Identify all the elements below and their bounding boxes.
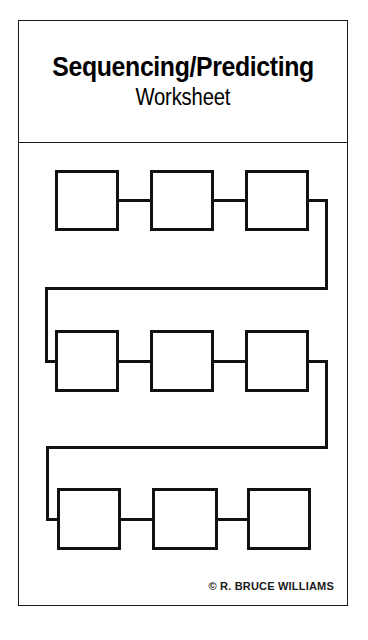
flow-box-step-3[interactable] [245, 170, 309, 231]
worksheet-page: Sequencing/Predicting Worksheet [0, 0, 368, 640]
connector-step1-step2 [117, 199, 152, 202]
copyright-credit: © R. BRUCE WILLIAMS [208, 580, 334, 592]
flow-box-step-7[interactable] [57, 488, 121, 550]
connector-row1-row2-down-right [325, 199, 328, 290]
flow-box-step-9[interactable] [247, 488, 311, 550]
flow-box-step-2[interactable] [150, 170, 214, 231]
sequencing-flow-diagram: © R. BRUCE WILLIAMS [18, 143, 348, 606]
flow-box-step-5[interactable] [150, 330, 214, 392]
flow-box-step-1[interactable] [55, 170, 119, 231]
connector-row2-row3-across [46, 446, 328, 449]
connector-row1-row2-down-left [45, 287, 48, 363]
connector-step4-step5 [117, 360, 152, 363]
page-subtitle: Worksheet [136, 85, 231, 109]
connector-step7-step8 [119, 518, 154, 521]
connector-step2-step3 [212, 199, 247, 202]
connector-row2-row3-down-left [46, 446, 49, 521]
worksheet-header: Sequencing/Predicting Worksheet [18, 20, 348, 143]
connector-row2-row3-down-right [325, 360, 328, 449]
flow-box-step-6[interactable] [245, 330, 309, 392]
flow-box-step-8[interactable] [152, 488, 218, 550]
connector-row1-row2-across [45, 287, 328, 290]
page-title: Sequencing/Predicting [52, 53, 313, 81]
flow-box-step-4[interactable] [55, 330, 119, 392]
connector-step8-step9 [216, 518, 249, 521]
connector-step5-step6 [212, 360, 247, 363]
